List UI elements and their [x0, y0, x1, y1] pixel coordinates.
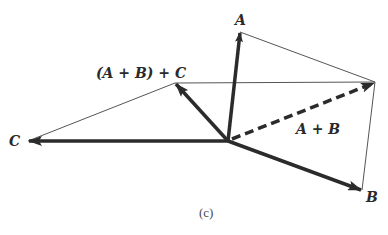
label-A-plus-B: A + B — [296, 122, 340, 136]
label-C: C — [9, 134, 20, 148]
line-A-to-sum — [240, 32, 375, 82]
vector-A-plus-B-plus-C-arrow — [176, 84, 228, 141]
line-sum-horizontal — [175, 82, 375, 83]
label-A: A — [235, 13, 246, 27]
label-B: B — [366, 190, 378, 204]
label-A-plus-B-plus-C: (A + B) + C — [96, 66, 186, 80]
line-abc-to-C — [28, 83, 175, 141]
figure-caption: (c) — [199, 206, 213, 219]
line-B-to-sum — [362, 82, 375, 190]
vector-addition-diagram — [0, 0, 388, 235]
vector-A-arrow — [228, 33, 240, 141]
vector-B-arrow — [228, 141, 361, 190]
vectors — [29, 33, 374, 190]
